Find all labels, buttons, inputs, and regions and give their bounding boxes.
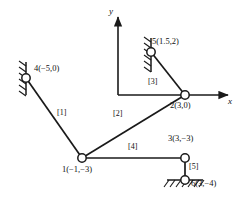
frame-diagram-svg (0, 0, 243, 197)
node-5-label: 5(1.5,2) (152, 37, 179, 46)
node-6-circle (181, 176, 189, 184)
node-1-circle (78, 154, 86, 162)
node-4-label: 4(−5,0) (34, 64, 59, 73)
element-2-label: [2] (113, 110, 122, 118)
node-2-circle (181, 91, 189, 99)
x-axis-label: x (228, 97, 232, 106)
element-5-label: [5] (189, 163, 198, 171)
element-1-member (26, 78, 82, 158)
y-axis-label: y (109, 7, 113, 16)
node-3-label: 3(3,−3) (168, 134, 193, 143)
figure-canvas: x y 4(−5,0) 5(1.5,2) 2(3,0) 1(−1,−3) 3(3… (0, 0, 243, 197)
coordinate-axes (118, 17, 228, 95)
element-3-member (151, 52, 185, 95)
node-6-label: 6(3,−4) (191, 179, 216, 188)
node-1-label: 1(−1,−3) (62, 165, 92, 174)
element-4-label: [4] (128, 143, 137, 151)
node-3-circle (181, 154, 189, 162)
node-2-label: 2(3,0) (170, 101, 191, 110)
element-1-label: [1] (57, 109, 66, 117)
node-5-circle (147, 48, 155, 56)
node-4-circle (22, 74, 30, 82)
element-3-label: [3] (148, 78, 157, 86)
